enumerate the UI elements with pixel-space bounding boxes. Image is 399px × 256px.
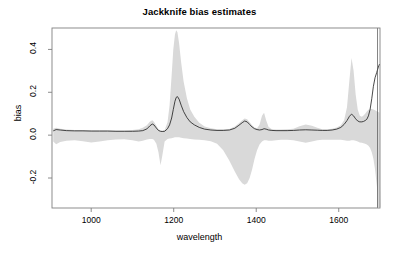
y-tick-label: 0.4 bbox=[28, 33, 38, 63]
y-tick-label: 0.2 bbox=[28, 76, 38, 106]
x-tick-label: 1000 bbox=[71, 215, 111, 225]
plot-box bbox=[52, 28, 380, 208]
y-axis-label: bias bbox=[13, 83, 23, 143]
bias-line bbox=[53, 64, 379, 132]
x-tick-label: 1600 bbox=[319, 215, 359, 225]
y-tick-label: 0.0 bbox=[28, 119, 38, 149]
x-tick-label: 1400 bbox=[236, 215, 276, 225]
chart-root: Jackknife bias estimates bias wavelength… bbox=[0, 0, 399, 256]
x-tick-label: 1200 bbox=[154, 215, 194, 225]
y-tick-label: -0.2 bbox=[28, 162, 38, 192]
x-axis-label: wavelength bbox=[0, 232, 399, 242]
confidence-band bbox=[53, 30, 379, 207]
